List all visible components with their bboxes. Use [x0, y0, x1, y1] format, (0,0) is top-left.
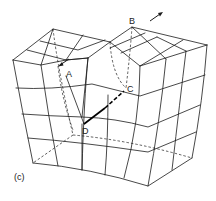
top-face — [13, 27, 207, 66]
right-edge — [192, 45, 207, 158]
notch-edge — [82, 58, 88, 117]
label-B: B — [129, 16, 135, 26]
top-grid-line — [40, 40, 105, 50]
top-grid-line — [27, 50, 66, 60]
label-A: A — [66, 69, 72, 79]
top-grid-line — [132, 27, 166, 59]
panel-label: (c) — [14, 172, 25, 182]
bottom-front-edge — [33, 158, 192, 186]
arrow-near-B — [150, 12, 163, 21]
front-grid-line — [22, 105, 200, 127]
top-grid-line — [41, 29, 53, 65]
dislocation-line — [84, 91, 124, 124]
top-grid-line — [110, 33, 145, 48]
left-edge — [13, 60, 33, 163]
right-grid-line — [172, 51, 186, 170]
top-right-front-edge — [110, 42, 207, 66]
top-grid-line — [140, 40, 183, 66]
label-C: C — [127, 84, 134, 94]
front-face — [13, 45, 207, 186]
label-D: D — [82, 126, 89, 136]
arrows — [58, 12, 163, 67]
front-grid-line — [148, 59, 166, 186]
deformed-block-diagram: A B C D (c) — [0, 0, 216, 201]
front-grid-line — [82, 58, 88, 170]
dislocation-solid — [84, 108, 105, 124]
hidden-lines — [33, 27, 192, 163]
